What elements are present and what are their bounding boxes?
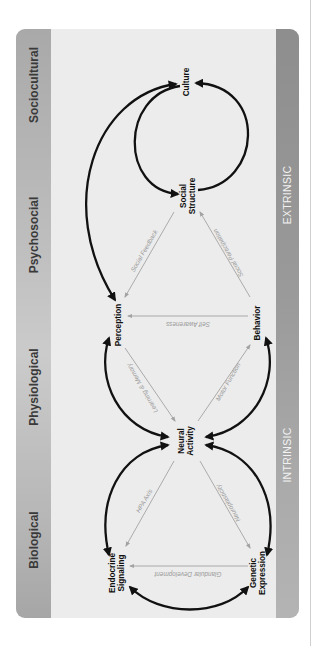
node-culture-label: Culture bbox=[182, 67, 191, 96]
arrow-hpa-axis bbox=[126, 461, 174, 546]
node-social-structure-line1: Social bbox=[179, 184, 188, 208]
extrinsic-label: EXTRINSIC bbox=[281, 166, 293, 225]
edge-label-learning-memory: Learning & Memory bbox=[124, 361, 159, 414]
node-behavior-label: Behavior bbox=[253, 305, 262, 341]
arrow-behavior-neural bbox=[206, 338, 270, 437]
stage-label-physiological: Physiological bbox=[27, 348, 41, 425]
edge-label-self-awareness: Self Awareness bbox=[165, 321, 210, 328]
arrow-social-structure-to-culture bbox=[196, 83, 248, 190]
edge-label-hpa-axis: HPA Axis bbox=[134, 487, 153, 514]
node-genetic-line1: Genetic bbox=[249, 558, 258, 588]
node-perception-label: Perception bbox=[114, 304, 123, 346]
node-behavior: Behavior bbox=[253, 305, 262, 341]
node-neural-activity-line1: Neural bbox=[177, 428, 186, 453]
node-endocrine-line2: Signaling bbox=[117, 555, 126, 592]
arrow-social-feedback bbox=[125, 212, 174, 297]
edge-label-neuroplasticity: Neuroplasticity bbox=[214, 482, 242, 523]
node-genetic-line2: Expression bbox=[258, 551, 267, 595]
arrow-neural-genetic bbox=[206, 445, 270, 555]
page-edge-rule bbox=[310, 0, 311, 646]
node-social-structure-line2: Structure bbox=[188, 177, 197, 214]
stage-label-sociocultural: Sociocultural bbox=[27, 47, 41, 123]
node-endocrine-line1: Endocrine bbox=[108, 553, 117, 593]
node-genetic-expression: Genetic Expression bbox=[249, 551, 267, 595]
node-endocrine-signaling: Endocrine Signaling bbox=[108, 553, 126, 593]
diagram-panel: Sociocultural Psychosocial Physiological… bbox=[16, 29, 299, 618]
diagram-canvas: Sociocultural Psychosocial Physiological… bbox=[16, 29, 299, 618]
intrinsic-label: INTRINSIC bbox=[281, 427, 293, 482]
stage-label-psychosocial: Psychosocial bbox=[27, 197, 41, 274]
arrow-neural-endocrine bbox=[106, 445, 168, 555]
node-neural-activity-line2: Activity bbox=[186, 426, 195, 456]
arrow-culture-to-social-structure bbox=[135, 86, 180, 194]
node-neural-activity: Neural Activity bbox=[177, 426, 195, 456]
edge-label-social-feedback: Social Feedback bbox=[129, 228, 159, 273]
edge-label-motor-function: Motor Function bbox=[214, 361, 242, 402]
node-social-structure: Social Structure bbox=[179, 177, 197, 214]
edge-label-social-participation: Social Participation bbox=[211, 227, 245, 278]
node-culture: Culture bbox=[182, 67, 191, 96]
arrow-endocrine-genetic bbox=[130, 587, 248, 610]
node-perception: Perception bbox=[114, 304, 123, 346]
stage-label-biological: Biological bbox=[27, 511, 41, 568]
edge-label-glandular-development: Glandular Development bbox=[154, 570, 221, 578]
